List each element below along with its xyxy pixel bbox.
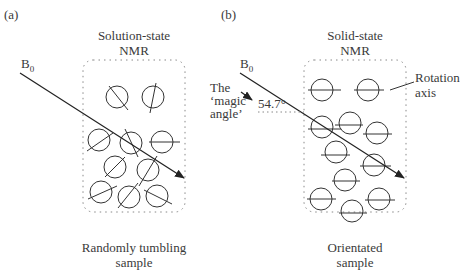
b0-label-a-main: B (21, 56, 30, 71)
panel-b-title-line2: NMR (305, 43, 405, 58)
magic-angle-line3: angle’ (210, 107, 246, 120)
magic-angle-label: The ‘magic angle’ (210, 81, 246, 120)
rotation-axis-line2: axis (415, 85, 460, 100)
panel-b-title-line1: Solid-state (305, 28, 405, 43)
panel-a-title-line2: NMR (84, 43, 184, 58)
b0-label-a: B0 (21, 56, 34, 74)
b0-label-a-sub: 0 (30, 64, 35, 74)
b0-label-b-main: B (240, 56, 249, 71)
panel-b-caption: Orientated sample (305, 240, 405, 270)
oriented-molecules (307, 79, 395, 222)
rotation-axis-line1: Rotation (415, 70, 460, 85)
panel-a-caption-line2: sample (74, 255, 194, 270)
solution-sample-box (83, 60, 185, 212)
panel-b-caption-line1: Orientated (305, 240, 405, 255)
panel-a-caption: Randomly tumbling sample (74, 240, 194, 270)
b0-field-arrow-a (20, 73, 184, 178)
rotation-axis-pointer (390, 82, 414, 90)
rotation-axis-label: Rotation axis (415, 70, 460, 100)
panel-a-title-line1: Solution-state (84, 28, 184, 43)
panel-b-tag: (b) (221, 7, 236, 23)
panel-a-title: Solution-state NMR (84, 28, 184, 58)
panel-a-caption-line1: Randomly tumbling (74, 240, 194, 255)
angle-value: 54.7° (258, 96, 286, 111)
b0-label-b-sub: 0 (249, 64, 254, 74)
b0-label-b: B0 (240, 56, 253, 74)
panel-b-caption-line2: sample (305, 255, 405, 270)
panel-a-tag: (a) (4, 7, 18, 23)
panel-b-title: Solid-state NMR (305, 28, 405, 58)
solid-sample-box (304, 60, 406, 212)
